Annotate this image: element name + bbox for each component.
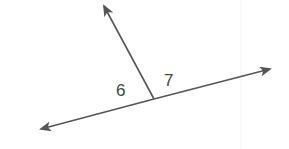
angle-6-label: 6: [116, 81, 125, 100]
diagram-svg: 6 7: [0, 0, 289, 149]
angle-7-label: 7: [164, 71, 173, 90]
transversal-ray: [104, 6, 154, 99]
main-line-left: [41, 99, 154, 129]
angle-diagram: 6 7: [0, 0, 289, 149]
